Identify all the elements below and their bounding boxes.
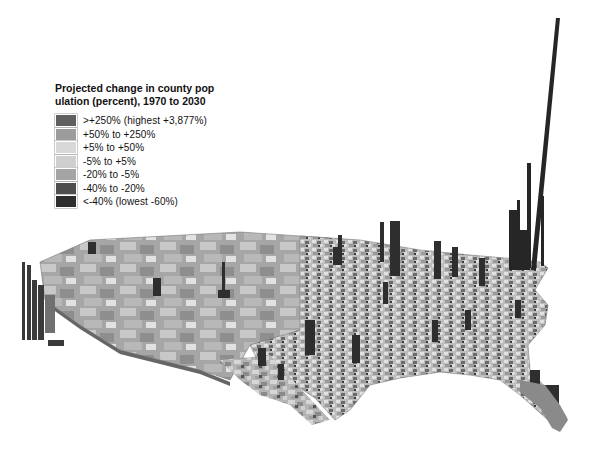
legend-label: -5% to +5% — [83, 156, 136, 167]
northeast-spikes — [509, 18, 560, 270]
legend-item: -40% to -20% — [55, 182, 255, 196]
legend-label: -40% to -20% — [83, 183, 145, 194]
legend-label: >+250% (highest +3,877%) — [83, 115, 207, 126]
legend-item: +5% to +50% — [55, 141, 255, 155]
map-legend: Projected change in county pop ulation (… — [55, 82, 255, 209]
legend-label: -20% to -5% — [83, 169, 139, 180]
legend-item: -5% to +5% — [55, 155, 255, 169]
legend-swatch — [55, 128, 77, 141]
legend-title-line1: Projected change in county pop — [55, 82, 235, 95]
us-county-3d-map — [0, 0, 615, 450]
legend-label: +50% to +250% — [83, 129, 155, 140]
legend-label: +5% to +50% — [83, 142, 144, 153]
legend-item: -20% to -5% — [55, 168, 255, 182]
legend-item: >+250% (highest +3,877%) — [55, 114, 255, 128]
legend-swatch — [55, 141, 77, 154]
legend-swatch — [55, 168, 77, 181]
legend-swatch — [55, 195, 77, 208]
legend-swatch — [55, 155, 77, 168]
legend-swatch — [55, 182, 77, 195]
legend-title: Projected change in county pop ulation (… — [55, 82, 235, 108]
legend-item: +50% to +250% — [55, 128, 255, 142]
legend-label: <-40% (lowest -60%) — [83, 196, 178, 207]
map-florida — [520, 380, 568, 432]
legend-item: <-40% (lowest -60%) — [55, 195, 255, 209]
legend-swatch — [55, 114, 77, 127]
legend-title-line2: ulation (percent), 1970 to 2030 — [55, 95, 235, 108]
